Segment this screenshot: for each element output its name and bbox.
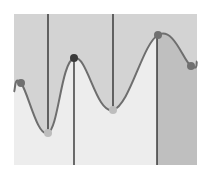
data-point-marker [70, 54, 78, 62]
data-point-marker [187, 62, 195, 70]
data-point-marker [17, 79, 25, 87]
data-point-marker [109, 106, 117, 114]
line-area-chart [0, 0, 209, 177]
data-point-marker [154, 31, 162, 39]
data-point-marker [44, 129, 52, 137]
chart [0, 0, 209, 177]
